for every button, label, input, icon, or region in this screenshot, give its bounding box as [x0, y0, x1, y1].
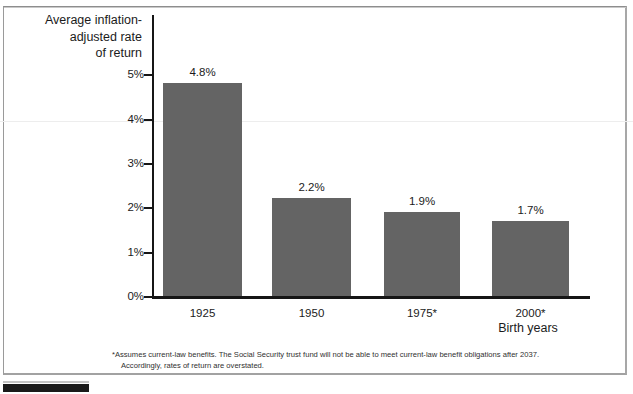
y-tick-mark-4: [144, 119, 152, 121]
bar-chart: Average inflation- adjusted rate of retu…: [0, 0, 633, 394]
bar-1975[interactable]: [384, 212, 460, 296]
y-axis-title-line-2: adjusted rate: [20, 29, 142, 46]
y-tick-label-3: 3%: [98, 158, 144, 170]
bar-value-2000: 1.7%: [492, 205, 569, 217]
x-tick-label-1925: 1925: [163, 308, 242, 320]
x-tick-label-1950: 1950: [272, 308, 351, 320]
bar-1950[interactable]: [272, 198, 351, 296]
bar-value-1975: 1.9%: [384, 196, 460, 208]
y-tick-mark-1: [144, 252, 152, 254]
footer-bar-shadow: [3, 381, 89, 383]
bar-value-1950: 2.2%: [272, 182, 351, 194]
bar-2000[interactable]: [492, 221, 569, 296]
bar-1925[interactable]: [163, 83, 242, 296]
y-tick-mark-5: [144, 74, 152, 76]
bar-value-1925: 4.8%: [163, 67, 242, 79]
y-tick-mark-2: [144, 207, 152, 209]
y-tick-label-2: 2%: [98, 202, 144, 214]
x-axis-line: [152, 296, 590, 299]
y-tick-label-4: 4%: [98, 114, 144, 126]
y-tick-label-0: 0%: [98, 291, 144, 303]
footer-black-bar: [3, 384, 89, 392]
footnote-line-2: Accordingly, rates of return are oversta…: [112, 360, 612, 371]
chart-footnote: *Assumes current-law benefits. The Socia…: [112, 349, 612, 371]
y-axis-title-line-1: Average inflation-: [20, 12, 142, 29]
y-tick-mark-3: [144, 163, 152, 165]
y-tick-mark-0: [144, 296, 152, 298]
y-axis-line: [152, 15, 154, 298]
x-tick-label-2000: 2000*: [492, 308, 569, 320]
y-tick-label-1: 1%: [98, 247, 144, 259]
y-tick-label-5: 5%: [98, 69, 144, 81]
footnote-line-1: *Assumes current-law benefits. The Socia…: [112, 350, 539, 359]
y-axis-title: Average inflation- adjusted rate of retu…: [20, 12, 142, 62]
y-axis-title-line-3: of return: [20, 45, 142, 62]
x-axis-title: Birth years: [468, 322, 588, 335]
x-tick-label-1975: 1975*: [384, 308, 460, 320]
